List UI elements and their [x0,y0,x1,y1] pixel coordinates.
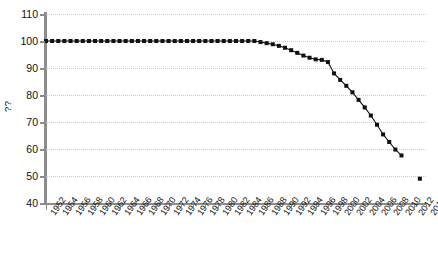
data-point-marker [50,39,54,43]
data-point-marker [99,39,103,43]
x-axis-tick [107,205,108,210]
data-point-marker [105,39,109,43]
data-point-marker [252,39,256,43]
y-axis-tick [40,68,45,70]
data-point-marker [191,39,195,43]
data-point-marker [387,140,391,144]
data-point-marker [81,39,85,43]
data-point-marker [93,39,97,43]
data-point-marker [75,39,79,43]
x-axis-tick [181,205,182,210]
x-axis-tick [218,205,219,210]
data-point-marker [246,39,250,43]
data-point-marker [344,84,348,88]
y-axis-tick [40,122,45,124]
x-axis-tick [291,205,292,210]
data-point-marker [234,39,238,43]
x-axis-tick [83,205,84,210]
x-axis-tick [242,205,243,210]
x-axis-tick [254,205,255,210]
data-point-marker [375,123,379,127]
x-axis-tick [144,205,145,210]
x-axis-tick [389,205,390,210]
data-point-marker [393,148,397,152]
data-point-marker [124,39,128,43]
data-point-marker [167,39,171,43]
x-axis-tick [426,205,427,210]
data-point-marker [265,41,269,45]
data-point-marker [301,54,305,58]
data-point-marker [350,90,354,94]
data-point-marker [240,39,244,43]
x-axis-tick [132,205,133,210]
x-axis-tick [46,205,47,210]
data-point-marker [399,153,403,157]
data-point-marker [118,39,122,43]
x-axis-tick [328,205,329,210]
data-point-marker [111,39,115,43]
x-axis-tick [120,205,121,210]
x-axis-tick [205,205,206,210]
data-point-marker [314,57,318,61]
x-axis-tick [230,205,231,210]
data-point-marker [130,39,134,43]
data-point-marker [381,132,385,136]
data-point-marker [185,39,189,43]
data-point-marker [209,39,213,43]
data-point-marker [418,177,422,181]
data-point-marker [148,39,152,43]
data-point-marker [363,105,367,109]
data-point-marker [369,114,373,118]
data-point-marker [216,39,220,43]
y-axis-tick [40,176,45,178]
data-point-marker [222,39,226,43]
y-axis-tick [40,41,45,43]
data-point-marker [179,39,183,43]
data-point-marker [326,60,330,64]
data-point-marker [203,39,207,43]
x-axis-tick [365,205,366,210]
x-axis-tick [267,205,268,210]
data-point-marker [320,58,324,62]
x-axis-tick [58,205,59,210]
x-axis-tick [156,205,157,210]
data-point-marker [357,98,361,102]
x-axis-tick [340,205,341,210]
y-axis-tick [40,14,45,16]
x-axis-tick [316,205,317,210]
y-axis-tick [40,203,45,205]
y-axis-tick [40,95,45,97]
data-point-marker [308,56,312,60]
data-point-marker [271,42,275,46]
data-point-marker [87,39,91,43]
data-point-marker [154,39,158,43]
data-point-marker [136,39,140,43]
y-axis-tick [40,149,45,151]
x-axis-tick [377,205,378,210]
data-point-marker [295,51,299,55]
x-axis-tick [414,205,415,210]
data-point-marker [332,71,336,75]
data-point-marker [228,39,232,43]
data-point-marker [277,44,281,48]
x-axis-tick [279,205,280,210]
data-point-marker [56,39,60,43]
data-point-marker [142,39,146,43]
x-axis-tick [71,205,72,210]
x-axis-tick [169,205,170,210]
x-axis-tick [401,205,402,210]
data-point-marker [160,39,164,43]
x-axis-tick [303,205,304,210]
data-point-marker [173,39,177,43]
data-point-marker [62,39,66,43]
data-point-marker [69,39,73,43]
data-point-marker [289,48,293,52]
data-point-marker [338,78,342,82]
series-line [46,41,401,155]
x-axis-tick [352,205,353,210]
data-point-marker [197,39,201,43]
x-axis-tick [95,205,96,210]
data-point-marker [259,40,263,44]
x-axis-tick [193,205,194,210]
chart-container: ?? 110100908070605040 195219541956195819… [0,0,438,253]
